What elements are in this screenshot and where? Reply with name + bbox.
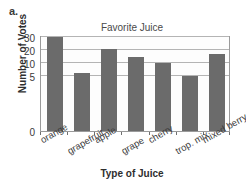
y-axis-tick-labels: 05102030 <box>0 36 37 132</box>
x-category-label: grape <box>119 135 146 157</box>
bar <box>155 63 171 131</box>
gridline <box>41 36 229 37</box>
x-axis-category-labels: orangegrapefruitapplegrapecherrytrop. mi… <box>0 132 246 172</box>
bar <box>101 49 117 131</box>
y-tick-label: 5 <box>29 72 35 83</box>
figure-container: a. Favorite Juice Number of Votes Type o… <box>0 0 246 184</box>
chart-title: Favorite Juice <box>34 22 230 33</box>
y-tick-label: 20 <box>24 46 35 57</box>
bar <box>209 54 225 131</box>
bar <box>182 76 198 131</box>
bar <box>74 73 90 131</box>
bar <box>128 57 144 132</box>
y-tick-label: 10 <box>24 59 35 70</box>
gridline <box>41 49 229 50</box>
plot-area <box>40 36 230 132</box>
bar <box>47 37 63 131</box>
y-tick-label: 30 <box>24 33 35 44</box>
